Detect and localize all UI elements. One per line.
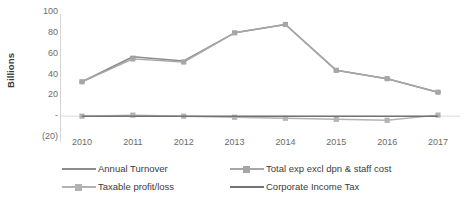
legend-row: Annual TurnoverTotal exp excl dpn & staf…: [62, 160, 442, 177]
legend-label: Corporate Income Tax: [264, 181, 359, 192]
y-axis-tick: -: [20, 111, 58, 120]
y-axis-tick: 20: [20, 90, 58, 99]
data-point-marker: [130, 113, 135, 118]
data-point-marker: [334, 68, 339, 73]
series-2: [79, 22, 440, 95]
legend-swatch-icon: [62, 163, 96, 175]
series-canvas: [60, 12, 460, 137]
legend-item[interactable]: Corporate Income Tax: [230, 178, 359, 195]
x-axis-tick: 2011: [123, 138, 142, 147]
x-axis-tick: 2016: [377, 138, 397, 147]
data-point-marker: [232, 30, 237, 35]
data-point-marker: [435, 113, 440, 118]
y-axis-title-label: Billions: [6, 52, 17, 87]
x-axis-tick: 2013: [225, 138, 245, 147]
data-point-marker: [130, 56, 135, 61]
legend-label: Taxable profit/loss: [96, 181, 174, 192]
data-point-marker: [232, 115, 237, 120]
y-axis-tick: 40: [20, 70, 58, 79]
x-axis-tick-labels: 20102011201220132014201520162017: [60, 138, 460, 154]
data-point-marker: [385, 118, 390, 123]
legend-swatch-icon: [230, 181, 264, 193]
data-point-marker: [181, 59, 186, 64]
data-point-marker: [79, 79, 84, 84]
y-axis-tick: 80: [20, 28, 58, 37]
x-axis-tick: 2014: [275, 138, 295, 147]
legend-label: Annual Turnover: [96, 163, 168, 174]
y-axis-tick: (20): [20, 132, 58, 141]
x-axis-tick: 2010: [72, 138, 92, 147]
data-point-marker: [334, 117, 339, 122]
legend-item[interactable]: Taxable profit/loss: [62, 178, 174, 195]
y-axis-tick-labels: 10080604020-(20): [18, 0, 58, 160]
chart-legend: Annual TurnoverTotal exp excl dpn & staf…: [62, 160, 442, 198]
line-chart: Billions 10080604020-(20) 20102011201220…: [0, 0, 466, 200]
legend-swatch-icon: [230, 163, 264, 175]
legend-swatch-icon: [62, 181, 96, 193]
series-3: [79, 113, 440, 123]
data-point-marker: [435, 90, 440, 95]
data-point-marker: [283, 22, 288, 27]
legend-item[interactable]: Total exp excl dpn & staff cost: [230, 160, 392, 177]
legend-row: Taxable profit/lossCorporate Income Tax: [62, 178, 442, 195]
x-axis-tick: 2012: [174, 138, 194, 147]
plot-area: [60, 12, 460, 137]
x-axis-tick: 2015: [326, 138, 346, 147]
x-axis-tick: 2017: [428, 138, 448, 147]
data-point-marker: [385, 76, 390, 81]
y-axis-tick: 100: [20, 7, 58, 16]
legend-label: Total exp excl dpn & staff cost: [264, 163, 392, 174]
y-axis-tick: 60: [20, 49, 58, 58]
legend-item[interactable]: Annual Turnover: [62, 160, 168, 177]
